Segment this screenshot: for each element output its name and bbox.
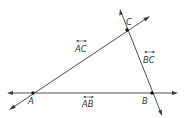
point-label-a: A — [27, 96, 34, 106]
line-label-ac: AC — [74, 44, 87, 54]
line-label-bc: BC — [143, 55, 155, 65]
point-b — [150, 91, 153, 94]
point-c — [125, 28, 128, 31]
geometry-diagram: C A B AC BC AB — [0, 0, 184, 118]
overarrow-right-icon — [153, 51, 156, 53]
overarrow-right-icon — [85, 40, 88, 42]
arrowhead-left-icon — [7, 91, 13, 95]
arrowhead-lower-left-icon — [9, 105, 16, 111]
arrowhead-bottom-icon — [158, 110, 162, 117]
line-label-ab: AB — [81, 99, 94, 109]
overarrow-left-icon — [76, 40, 79, 42]
overarrow-left-icon — [144, 51, 147, 53]
point-label-c: C — [126, 17, 132, 27]
point-label-b: B — [142, 96, 148, 106]
line-label-bc-group: BC — [143, 51, 155, 65]
line-label-ab-group: AB — [81, 96, 94, 109]
point-a — [31, 91, 34, 94]
arrowhead-right-icon — [172, 91, 178, 95]
overarrow-left-icon — [83, 96, 86, 98]
line-label-ac-group: AC — [74, 40, 87, 54]
overarrow-right-icon — [92, 96, 95, 98]
arrowhead-upper-right-icon — [143, 16, 150, 22]
